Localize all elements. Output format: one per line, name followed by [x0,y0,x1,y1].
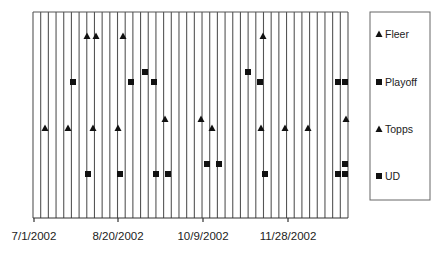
x-axis-ticks [34,218,288,222]
square-marker [216,161,222,167]
square-marker [204,161,210,167]
square-legend-icon [376,173,382,179]
square-marker [153,171,159,177]
legend-label: UD [385,170,401,182]
square-marker [151,79,157,85]
square-marker [245,69,251,75]
triangle-marker [90,125,97,132]
x-axis-tick-labels: 7/1/20028/20/200210/9/200211/28/2002 [12,230,317,242]
triangle-marker [115,125,122,132]
triangle-marker [42,125,49,132]
legend-label: Topps [385,123,413,135]
square-marker [257,79,263,85]
scatter-chart: 7/1/20028/20/200210/9/200211/28/2002 Fle… [0,0,439,256]
square-marker [335,79,341,85]
square-marker [335,171,341,177]
square-marker [142,69,148,75]
x-axis: 7/1/20028/20/200210/9/200211/28/2002 [12,218,348,242]
triangle-marker [93,33,100,40]
series-topps [42,116,350,132]
series-ud [85,161,348,177]
square-marker [342,161,348,167]
square-marker [262,171,268,177]
x-tick-label: 11/28/2002 [260,230,317,242]
square-marker [117,171,123,177]
x-tick-label: 8/20/2002 [92,230,143,242]
triangle-marker [84,33,91,40]
triangle-marker [162,116,169,123]
triangle-marker [305,125,312,132]
square-marker [342,79,348,85]
legend-label: Playoff [385,76,417,88]
triangle-marker [198,116,205,123]
square-legend-icon [376,79,382,85]
vertical-gridlines [33,12,348,218]
series-fleer [84,33,267,40]
square-marker [165,171,171,177]
triangle-marker [65,125,72,132]
x-tick-label: 7/1/2002 [12,230,57,242]
triangle-marker [282,125,289,132]
triangle-marker [260,33,267,40]
legend-label: Fleer [385,28,409,40]
x-tick-label: 10/9/2002 [177,230,228,242]
series-playoff [70,69,348,85]
square-marker [128,79,134,85]
square-marker [70,79,76,85]
data-markers [42,33,350,178]
legend: FleerPlayoffToppsUD [370,12,430,200]
square-marker [85,171,91,177]
square-marker [342,171,348,177]
